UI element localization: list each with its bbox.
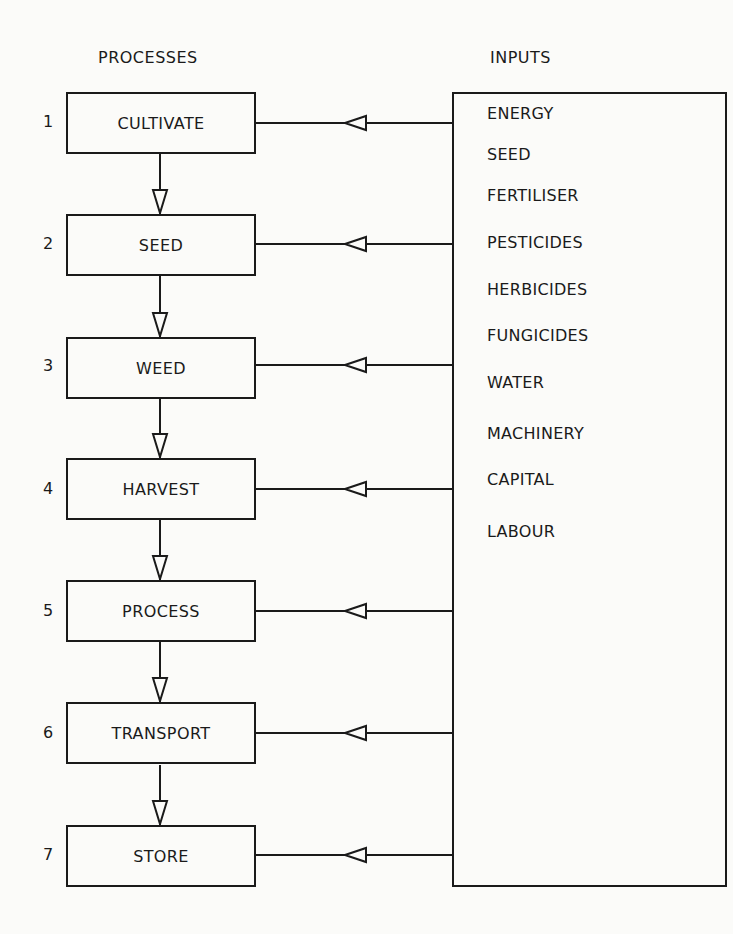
process-label: TRANSPORT <box>112 724 211 743</box>
input-arrow-6 <box>254 726 452 740</box>
input-item-pesticides: PESTICIDES <box>487 233 583 252</box>
input-arrow-2 <box>254 237 452 251</box>
inputs-heading: INPUTS <box>490 48 551 67</box>
input-item-fertiliser: FERTILISER <box>487 186 579 205</box>
input-item-fungicides: FUNGICIDES <box>487 326 588 345</box>
input-item-capital: CAPITAL <box>487 470 554 489</box>
process-label: STORE <box>133 847 189 866</box>
input-item-machinery: MACHINERY <box>487 424 584 443</box>
input-item-herbicides: HERBICIDES <box>487 280 587 299</box>
flow-arrow-3-4 <box>153 398 167 458</box>
flow-arrow-6-7 <box>153 765 167 825</box>
process-label: SEED <box>139 236 183 255</box>
input-item-water: WATER <box>487 373 544 392</box>
input-item-energy: ENERGY <box>487 104 553 123</box>
process-label: PROCESS <box>122 602 200 621</box>
flow-arrow-1-2 <box>153 154 167 214</box>
process-number-1: 1 <box>40 112 56 131</box>
process-number-3: 3 <box>40 356 56 375</box>
process-box-process: PROCESS <box>66 580 256 642</box>
input-item-seed: SEED <box>487 145 531 164</box>
process-box-store: STORE <box>66 825 256 887</box>
process-box-harvest: HARVEST <box>66 458 256 520</box>
input-arrow-7 <box>254 848 452 862</box>
input-arrow-3 <box>254 358 452 372</box>
process-box-cultivate: CULTIVATE <box>66 92 256 154</box>
flow-arrow-4-5 <box>153 520 167 580</box>
flow-arrow-2-3 <box>153 276 167 337</box>
process-label: HARVEST <box>122 480 199 499</box>
process-number-5: 5 <box>40 601 56 620</box>
input-arrow-4 <box>254 482 452 496</box>
process-box-transport: TRANSPORT <box>66 702 256 764</box>
process-number-4: 4 <box>40 479 56 498</box>
process-box-seed: SEED <box>66 214 256 276</box>
inputs-box <box>452 92 727 887</box>
processes-heading: PROCESSES <box>98 48 198 67</box>
input-arrow-5 <box>254 604 452 618</box>
input-arrow-1 <box>254 116 452 130</box>
process-box-weed: WEED <box>66 337 256 399</box>
flow-arrow-5-6 <box>153 642 167 702</box>
process-number-6: 6 <box>40 723 56 742</box>
process-number-7: 7 <box>40 845 56 864</box>
input-item-labour: LABOUR <box>487 522 555 541</box>
process-label: WEED <box>136 359 186 378</box>
process-number-2: 2 <box>40 234 56 253</box>
process-label: CULTIVATE <box>117 114 204 133</box>
